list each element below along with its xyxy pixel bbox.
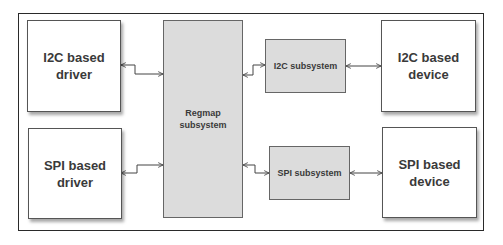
i2c-driver-label-line1: I2C based (43, 50, 104, 65)
spi-driver-node: SPI baseddriver (28, 128, 122, 219)
edge-regmap-spi-subsystem (243, 165, 269, 173)
i2c-driver-label-line2: driver (56, 67, 92, 82)
i2c-subsystem-label: I2C subsystem (274, 61, 338, 71)
regmap-node: Regmapsubsystem (163, 20, 243, 218)
spi-subsystem-label: SPI subsystem (277, 168, 341, 178)
i2c-device-label-line2: device (408, 67, 448, 82)
i2c-subsystem-node: I2C subsystem (265, 39, 346, 93)
edge-spi-driver-regmap (121, 165, 163, 173)
spi-device-node: SPI baseddevice (382, 127, 477, 218)
regmap-label-line2: subsystem (179, 120, 226, 130)
i2c-device-label-line1: I2C based (398, 50, 459, 65)
spi-subsystem-node: SPI subsystem (269, 146, 350, 200)
regmap-label-line1: Regmap (185, 108, 221, 118)
spi-driver-label-line2: driver (57, 175, 93, 190)
i2c-driver-node: I2C baseddriver (27, 20, 121, 112)
i2c-device-node: I2C baseddevice (381, 20, 476, 112)
spi-device-label-line1: SPI based (398, 157, 460, 172)
spi-driver-label-line1: SPI based (44, 158, 106, 173)
edge-regmap-i2c-subsystem (243, 65, 265, 75)
edge-i2c-driver-regmap (121, 65, 163, 74)
spi-device-label-line2: device (409, 174, 449, 189)
